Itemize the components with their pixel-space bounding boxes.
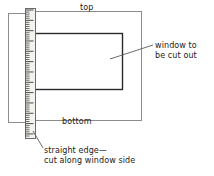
label-bottom: bottom (62, 117, 92, 127)
diagram-canvas: top bottom window to be cut out straight… (0, 0, 214, 176)
straight-edge-body (26, 9, 36, 139)
straight-edge-leader-line (33, 131, 43, 148)
window-cutout (34, 34, 123, 90)
front-sheet (34, 12, 142, 121)
label-top: top (80, 3, 93, 13)
label-window-to-be-cut-out: window to be cut out (155, 41, 197, 60)
label-straight-edge: straight edge— cut along window side (44, 146, 135, 165)
window-leader-line (110, 45, 153, 59)
